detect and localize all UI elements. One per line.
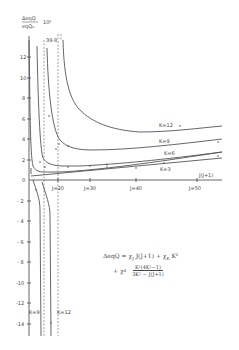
data-points [35, 115, 219, 324]
svg-text:-10: -10 [16, 280, 24, 286]
svg-text:- 4: - 4 [17, 218, 24, 224]
asymptote-annotation: 39·8 [46, 37, 57, 43]
svg-text:J=40: J=40 [129, 185, 142, 191]
label-k3: K=3 [160, 166, 171, 172]
curve-k3 [31, 158, 222, 176]
svg-text:J=50: J=50 [188, 185, 201, 191]
formula: ΔeqQ = χJ J(J+1) + χK K² + χd K²(4K²−1) … [103, 252, 223, 277]
x-tick-labels: J=20 J=30 J=40 J=50 [51, 185, 201, 191]
svg-text:J=30: J=30 [83, 185, 96, 191]
label-k12-lower: K=12 [57, 309, 71, 315]
svg-text:- 6: - 6 [17, 239, 24, 245]
svg-text:8: 8 [22, 95, 25, 101]
svg-text:- 2: - 2 [17, 198, 24, 204]
x-axis-title: J(J+1) [198, 172, 213, 178]
svg-text:ΔeqQ: ΔeqQ [22, 15, 36, 22]
svg-text:6: 6 [22, 116, 25, 122]
formula-line2: + χd K²(4K²−1) 3K² − J(J+1) [113, 264, 223, 277]
svg-text:0: 0 [22, 177, 25, 183]
svg-text:10: 10 [20, 75, 26, 81]
curve-k9-upper [47, 48, 222, 150]
label-k6: K=6 [164, 150, 175, 156]
label-k9-lower: K=9 [29, 309, 40, 315]
formula-line1: ΔeqQ = χJ J(J+1) + χK K² [103, 252, 223, 261]
svg-text:J=20: J=20 [51, 185, 64, 191]
curve-k12-lower [42, 182, 51, 336]
y-axis-title: ΔeqQ eqQ₀ 10³ [22, 15, 51, 30]
svg-text:10³: 10³ [43, 19, 51, 25]
svg-text:4: 4 [22, 136, 25, 142]
chart-canvas: 12 10 8 6 4 2 0 - 2 - 4 - 6 - 8 -10 -12 … [0, 0, 239, 350]
label-k12: K=12 [159, 122, 173, 128]
curve-k12 [63, 40, 222, 132]
svg-text:eqQ₀: eqQ₀ [22, 23, 34, 30]
label-k9: K=9 [159, 138, 170, 144]
svg-text:12: 12 [20, 54, 26, 60]
svg-text:2: 2 [22, 157, 25, 163]
svg-text:- 8: - 8 [17, 259, 24, 265]
svg-text:-14: -14 [16, 321, 24, 327]
y-tick-labels: 12 10 8 6 4 2 0 - 2 - 4 - 6 - 8 -10 -12 … [16, 54, 26, 327]
svg-text:-12: -12 [16, 300, 24, 306]
formula-fraction: K²(4K²−1) 3K² − J(J+1) [130, 264, 166, 277]
